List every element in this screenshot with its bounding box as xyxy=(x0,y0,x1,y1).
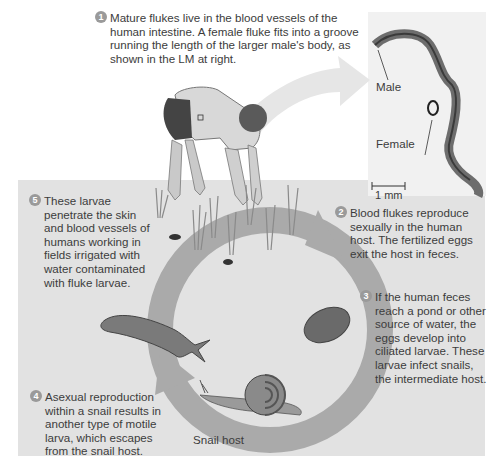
step-5-text: These larvae penetrate the skin and bloo… xyxy=(44,194,150,289)
step-2: 2 Blood flukes reproduce sexually in the… xyxy=(350,206,490,260)
step-1-text: Mature flukes live in the blood vessels … xyxy=(110,11,359,65)
step-2-badge: 2 xyxy=(335,206,347,218)
scale-bar-label: 1 mm xyxy=(375,189,403,201)
step-4: 4 Asexual reproduction within a snail re… xyxy=(45,390,165,458)
step-1-badge: 1 xyxy=(95,11,107,23)
step-3-text: If the human feces reach a pond or other… xyxy=(375,290,487,385)
step-4-badge: 4 xyxy=(30,390,42,402)
step-3-badge: 3 xyxy=(360,290,372,302)
human-worker-icon xyxy=(164,87,267,205)
female-label: Female xyxy=(376,137,415,150)
step-1: 1 Mature flukes live in the blood vessel… xyxy=(110,11,360,65)
step-5-badge: 5 xyxy=(29,194,41,206)
step-3: 3 If the human feces reach a pond or oth… xyxy=(375,290,487,385)
step-5: 5 These larvae penetrate the skin and bl… xyxy=(44,194,154,289)
step-2-text: Blood flukes reproduce sexually in the h… xyxy=(350,206,473,260)
male-label: Male xyxy=(376,80,401,93)
small-snail-icon xyxy=(169,234,181,240)
step-4-text: Asexual reproduction within a snail resu… xyxy=(45,390,161,457)
snail-host-label: Snail host xyxy=(193,433,244,446)
blood-fluke-micrograph-icon xyxy=(372,34,479,196)
